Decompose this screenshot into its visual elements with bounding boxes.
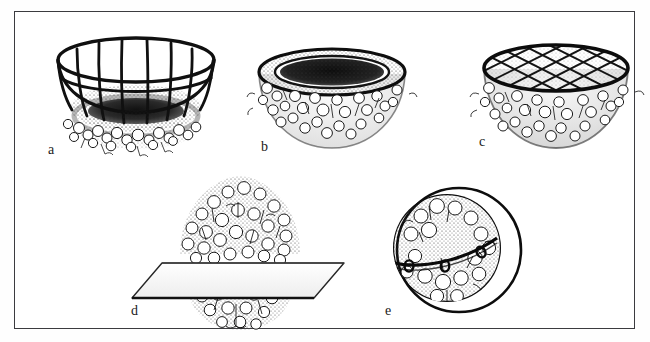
- panel-label-a: a: [48, 143, 55, 157]
- panel-c-mesh-topped-basket: [467, 36, 645, 160]
- panel-label-c: c: [479, 135, 486, 149]
- panel-label-d: d: [131, 304, 138, 318]
- ball-surface-detail: [391, 194, 501, 304]
- panel-label-b: b: [261, 140, 268, 154]
- panel-a-wire-basket: [41, 34, 231, 162]
- panel-e-seam-clip-detail: [385, 178, 531, 326]
- panel-b-filled-basket: [247, 38, 417, 160]
- flower-ball-upper-half: [180, 176, 300, 266]
- basket-b-compost-fill: [280, 59, 384, 86]
- figure-plate: a: [0, 0, 650, 342]
- plate-border: a: [14, 11, 635, 329]
- plane-board: [126, 263, 350, 298]
- panel-label-e: e: [385, 304, 392, 318]
- panel-d-flower-ball-on-plane: [118, 158, 358, 330]
